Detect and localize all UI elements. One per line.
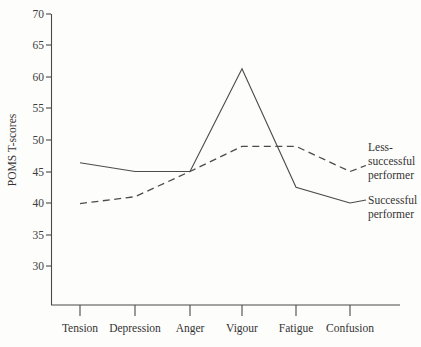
y-tick-label: 65: [33, 39, 45, 51]
legend-line: Less-: [368, 141, 393, 153]
legend-line: performer: [368, 208, 414, 221]
x-axis-category-labels: Tension Depression Anger Vigour Fatigue …: [62, 322, 374, 335]
legend-label-successful-performer: Successful performer: [368, 194, 417, 221]
y-axis-tick-marks: [46, 14, 51, 266]
y-axis-tick-labels: 70 65 60 55 50 45 40 35 30: [33, 8, 45, 272]
y-tick-label: 60: [33, 71, 45, 83]
y-tick-label: 35: [33, 229, 45, 241]
y-tick-label: 45: [33, 166, 45, 178]
y-tick-label: 50: [33, 134, 45, 146]
y-tick-label: 30: [33, 260, 45, 272]
x-tick-label-anger: Anger: [176, 322, 205, 335]
legend-label-less-successful-performer: Less- successful performer: [368, 141, 415, 182]
poms-line-chart: POMS T-scores 70 65 60 55 50 45 40 35 30: [0, 0, 421, 347]
x-tick-label-vigour: Vigour: [226, 322, 258, 335]
series-line-successful-performer: [80, 69, 350, 203]
series-line-less-successful-performer: [80, 146, 350, 203]
x-tick-label-fatigue: Fatigue: [279, 322, 314, 335]
x-axis-tick-marks: [80, 305, 350, 316]
x-tick-label-depression: Depression: [109, 322, 161, 335]
x-tick-label-tension: Tension: [62, 322, 98, 334]
legend-leader-successful: [350, 200, 366, 203]
x-tick-label-confusion: Confusion: [326, 322, 374, 334]
y-axis-title: POMS T-scores: [6, 113, 18, 186]
chart-canvas: POMS T-scores 70 65 60 55 50 45 40 35 30: [0, 0, 421, 347]
y-tick-label: 40: [33, 197, 45, 209]
legend-line: Successful: [368, 194, 417, 206]
y-tick-label: 55: [33, 102, 45, 114]
legend-leader-less-successful: [350, 166, 366, 172]
y-tick-label: 70: [33, 8, 45, 20]
legend-line: successful: [368, 155, 415, 167]
legend-line: performer: [368, 169, 414, 182]
